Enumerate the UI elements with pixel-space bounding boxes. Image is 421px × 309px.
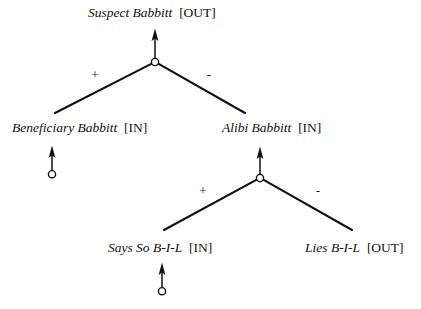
saysso-premise-arrow [158,263,165,295]
premise-node-beneficiary [48,171,55,178]
argument-tree-diagram: Suspect Babbitt [OUT] Beneficiary Babbit… [0,0,421,309]
node-state-beneficiary-babbitt: [IN] [124,120,147,135]
junction-node-alibi [256,174,263,181]
node-state-says-so-bil: [IN] [189,240,212,255]
node-label-suspect-babbitt: Suspect Babbitt [OUT] [88,6,216,20]
node-separator-lies-bil [360,240,367,255]
edge-beneficiary-to-suspect [55,63,152,113]
node-state-lies-bil: [OUT] [367,240,404,255]
node-label-lies-bil: Lies B-I-L [OUT] [305,241,404,255]
sign-label-lower-right-negative: - [311,184,325,197]
node-separator-says-so-bil [182,240,189,255]
node-name-beneficiary-babbitt: Beneficiary Babbitt [12,120,117,135]
sign-label-upper-left-positive: + [88,68,102,81]
node-label-says-so-bil: Says So B-I-L [IN] [108,241,212,255]
premise-node-saysso [158,288,165,295]
node-name-suspect-babbitt: Suspect Babbitt [88,5,172,20]
edge-saysso-to-alibi [164,179,257,230]
node-name-says-so-bil: Says So B-I-L [108,240,182,255]
suspect-support-junction [55,29,245,114]
edge-lies-to-alibi [263,180,352,230]
node-name-alibi-babbitt: Alibi Babbitt [222,120,291,135]
node-name-lies-bil: Lies B-I-L [305,240,360,255]
node-state-alibi-babbitt: [IN] [298,120,321,135]
node-label-beneficiary-babbitt: Beneficiary Babbitt [IN] [12,121,147,135]
diagram-edges-layer [0,0,421,309]
node-label-alibi-babbitt: Alibi Babbitt [IN] [222,121,321,135]
junction-node-suspect [151,58,158,65]
beneficiary-premise-arrow [48,146,55,178]
sign-label-upper-right-negative: - [202,68,216,81]
node-state-suspect-babbitt: [OUT] [179,5,216,20]
sign-label-lower-left-positive: + [196,184,210,197]
